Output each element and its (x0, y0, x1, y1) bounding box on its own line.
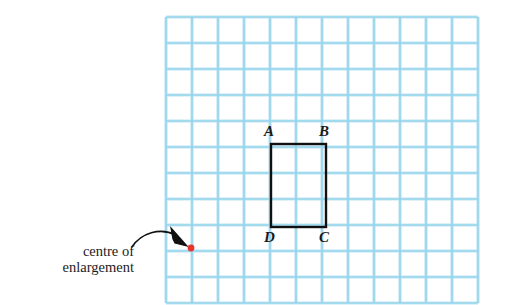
vertex-label-b: B (319, 124, 329, 139)
caption-line-1: centre of (12, 243, 134, 259)
vertex-label-c: C (319, 230, 329, 245)
vertex-label-d: D (264, 230, 275, 245)
centre-of-enlargement-point (188, 245, 195, 252)
rectangle-abcd (271, 144, 326, 227)
vertex-label-a: A (264, 124, 274, 139)
caption-line-2: enlargement (12, 259, 134, 275)
pointer-arrow-icon (132, 231, 176, 247)
figure-canvas: A B D C centre of enlargement (0, 0, 507, 305)
centre-of-enlargement-caption: centre of enlargement (12, 243, 134, 275)
pointer-arrowhead-icon (171, 228, 187, 246)
